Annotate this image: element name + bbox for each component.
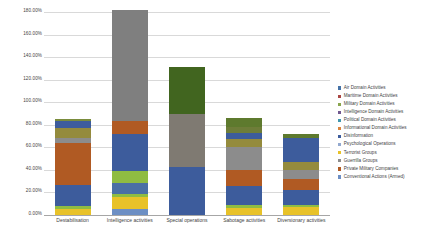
x-tick-label: Special operations — [158, 218, 215, 224]
legend-label: Military Domain Activities — [344, 102, 395, 107]
legend-label: Maritime Domain Activities — [344, 94, 398, 99]
bar-segment[interactable] — [226, 186, 262, 205]
legend-item[interactable]: Private Military Companies — [338, 165, 444, 173]
bar-segment[interactable] — [112, 197, 148, 209]
bar-segment[interactable] — [169, 67, 205, 113]
bar-segment[interactable] — [112, 134, 148, 171]
bar-stack[interactable] — [169, 67, 205, 215]
y-tick-label: 100.00% — [2, 99, 42, 104]
bar-segment[interactable] — [55, 121, 91, 128]
legend-label: Intelligence Domain Activities — [344, 110, 404, 115]
legend-swatch-icon — [338, 135, 341, 138]
legend-item[interactable]: Psychological Operations — [338, 141, 444, 149]
x-tick-label: Destabilisation — [44, 218, 101, 224]
bar-segment[interactable] — [283, 162, 319, 170]
y-tick-label: 0.00% — [2, 212, 42, 217]
x-axis-category-labels: DestabilisationIntelligence activitiesSp… — [44, 218, 330, 232]
bar-stack[interactable] — [283, 134, 319, 215]
bar-segment[interactable] — [169, 167, 205, 215]
bar-segment[interactable] — [55, 128, 91, 138]
plot-area — [44, 12, 330, 215]
legend-item[interactable]: Air Domain Activities — [338, 84, 444, 92]
legend-swatch-icon — [338, 175, 341, 178]
y-tick-label: 180.00% — [2, 9, 42, 14]
legend-item[interactable]: Maritime Domain Activities — [338, 92, 444, 100]
bar-segment[interactable] — [112, 10, 148, 122]
legend-label: Political Domain Activities — [344, 118, 396, 123]
x-tick-label: Sabotage activities — [216, 218, 273, 224]
y-tick-label: 60.00% — [2, 144, 42, 149]
bar-segment[interactable] — [112, 209, 148, 215]
bar-segment[interactable] — [283, 190, 319, 205]
y-tick-label: 160.00% — [2, 32, 42, 37]
legend-item[interactable]: Military Domain Activities — [338, 100, 444, 108]
legend-swatch-icon — [338, 111, 341, 114]
legend-swatch-icon — [338, 119, 341, 122]
y-axis-tick-labels: 180.00%160.00%140.00%120.00%100.00%80.00… — [0, 12, 42, 215]
y-tick-label: 20.00% — [2, 189, 42, 194]
bar-segment[interactable] — [226, 139, 262, 147]
legend-label: Private Military Companies — [344, 167, 399, 172]
bar-series-container — [44, 12, 330, 215]
bar-segment[interactable] — [226, 133, 262, 140]
bar-stack[interactable] — [226, 118, 262, 215]
bar-segment[interactable] — [226, 118, 262, 127]
legend-label: Conventional Actions (Armed) — [344, 175, 405, 180]
legend-label: Psychological Operations — [344, 142, 396, 147]
legend-item[interactable]: Conventional Actions (Armed) — [338, 173, 444, 181]
legend-swatch-icon — [338, 143, 341, 146]
legend-swatch-icon — [338, 159, 341, 162]
legend-label: Air Domain Activities — [344, 86, 386, 91]
bar-segment[interactable] — [226, 170, 262, 186]
x-tick-label: Diversionary activities — [273, 218, 330, 224]
bar-segment[interactable] — [55, 185, 91, 206]
bar-segment[interactable] — [55, 143, 91, 185]
legend-item[interactable]: Disinformation — [338, 133, 444, 141]
legend-label: Guerrilla Groups — [344, 159, 378, 164]
bar-segment[interactable] — [283, 179, 319, 190]
legend-item[interactable]: Intelligence Domain Activities — [338, 108, 444, 116]
legend-label: Disinformation — [344, 134, 373, 139]
chart-legend: Air Domain ActivitiesMaritime Domain Act… — [338, 84, 444, 181]
legend-swatch-icon — [338, 151, 341, 154]
y-tick-label: 80.00% — [2, 122, 42, 127]
x-tick-label: Intelligence activities — [101, 218, 158, 224]
bar-segment[interactable] — [226, 147, 262, 170]
stacked-bar-chart: 180.00%160.00%140.00%120.00%100.00%80.00… — [0, 0, 446, 248]
bar-segment[interactable] — [226, 208, 262, 215]
legend-item[interactable]: Guerrilla Groups — [338, 157, 444, 165]
bar-segment[interactable] — [283, 170, 319, 179]
legend-label: Terrorist Groups — [344, 151, 377, 156]
bar-segment[interactable] — [283, 207, 319, 215]
bar-segment[interactable] — [112, 183, 148, 193]
legend-swatch-icon — [338, 103, 341, 106]
y-tick-label: 120.00% — [2, 77, 42, 82]
bar-segment[interactable] — [283, 138, 319, 162]
y-tick-label: 40.00% — [2, 167, 42, 172]
bar-segment[interactable] — [169, 114, 205, 167]
bar-stack[interactable] — [55, 119, 91, 215]
bar-segment[interactable] — [55, 209, 91, 215]
bar-stack[interactable] — [112, 10, 148, 215]
legend-swatch-icon — [338, 86, 341, 89]
legend-swatch-icon — [338, 95, 341, 98]
legend-swatch-icon — [338, 127, 341, 130]
bar-segment[interactable] — [112, 171, 148, 183]
legend-item[interactable]: Political Domain Activities — [338, 116, 444, 124]
legend-item[interactable]: Informational Domain Activities — [338, 124, 444, 132]
legend-swatch-icon — [338, 167, 341, 170]
legend-label: Informational Domain Activities — [344, 126, 407, 131]
axis-baseline — [44, 215, 330, 216]
bar-segment[interactable] — [112, 121, 148, 133]
legend-item[interactable]: Terrorist Groups — [338, 149, 444, 157]
y-tick-label: 140.00% — [2, 54, 42, 59]
